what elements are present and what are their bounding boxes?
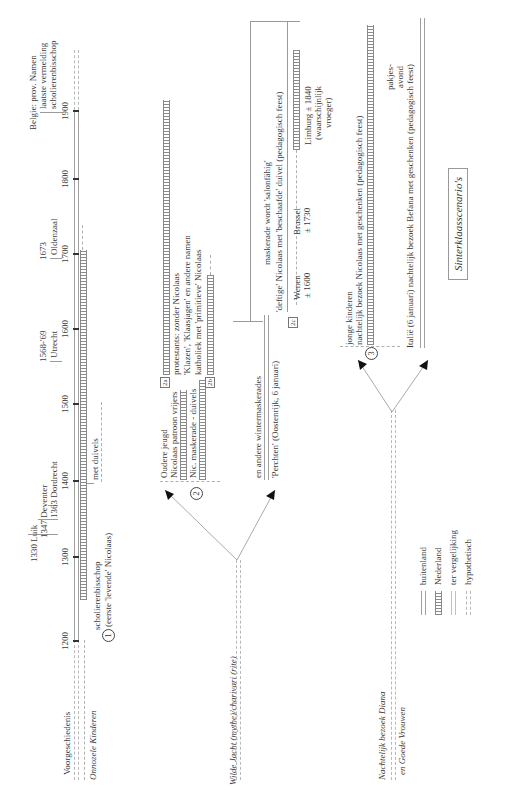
legend-label: ter vergelijking (448, 530, 458, 585)
diagram-title: Sinterklaasscenario's (448, 168, 468, 280)
s3-kinderen1: jonge kinderen (344, 291, 354, 345)
wilde-jacht-dashed (236, 560, 241, 780)
s3-pakjes2: avond (395, 66, 405, 88)
tick-1200 (73, 640, 79, 642)
s2-jeugd-band (180, 390, 187, 480)
s3-vert-dash (340, 346, 400, 347)
s1-duivels: met duivels (90, 438, 100, 480)
s2c-wenen-year: ± 1600 (302, 273, 312, 298)
s2c-bottom-line (287, 22, 288, 312)
s2-jeugd2: Nicolaas patroon vrijers (169, 392, 179, 478)
event-oldenzaal-year: 1673 (38, 242, 48, 260)
tick-label-1600: 1600 (60, 320, 70, 338)
event-utrecht-year: 1568-'69 (38, 330, 48, 362)
legend-hypothetisch: hypothetisch (463, 539, 473, 615)
s3-kinderen2: nachtelijk bezoek Nicolaas met geschenke… (354, 116, 364, 345)
event-oldenzaal: Oldenzaal (49, 219, 59, 255)
s2c-limburg: Limburg ± 1840 (303, 86, 313, 145)
s2a-protestants: protestants: zonder Nicolaas (171, 273, 181, 375)
legend-label: Nederland (433, 548, 443, 585)
s2b-dash (210, 255, 211, 275)
tick-label-1400: 1400 (60, 472, 70, 490)
event-utrecht: Utrecht (49, 331, 59, 358)
s2c-limburg-3: vroeger) (323, 98, 333, 128)
scenario-3-badge: 3 (365, 347, 378, 360)
onnozele-dash (84, 640, 85, 780)
legend-ter-vergelijking: ter vergelijking (448, 530, 458, 615)
s2c-brussel: Brussel (292, 208, 302, 235)
tick-label-1700: 1700 (60, 245, 70, 263)
oldenzaal-marker (50, 258, 62, 259)
s2-vert-dash (160, 481, 220, 482)
s1-line2: (eerste 'levende' Nicolaas) (103, 533, 113, 627)
s2a-tag: 2a (160, 377, 170, 388)
s3-pakjes1: pakjes- (385, 64, 395, 90)
legend-label: buitenland (418, 547, 428, 585)
s2c-limburg-2: (waarschijnlijk (313, 86, 323, 140)
tick-1400 (73, 480, 79, 482)
s2-maskerade-band (199, 380, 206, 480)
s2c-limburg-band (293, 50, 300, 150)
s2-jeugd1: Oudere jeugd (159, 429, 169, 478)
legend-swatch-hatched (435, 591, 442, 615)
event-namen: Belgie: prov. Namen (28, 55, 38, 130)
legend-swatch-dashed (466, 591, 471, 615)
title-text: Sinterklaasscenario's (452, 177, 464, 271)
legend-nederland: Nederland (433, 548, 443, 615)
s2-perchten: 'Perchten' (Oostenrijk, 6 januari) (270, 361, 280, 478)
axis-future-dashed (74, 50, 79, 110)
tick-1600 (73, 328, 79, 330)
label-nachtelijk-2: en Goede Vrouwen (397, 707, 407, 775)
axis-prehistory-dashed (74, 640, 79, 780)
tick-label-1200: 1200 (60, 632, 70, 650)
s2a-katholiek: katholiek met 'primitieve' Nicolaas (193, 250, 203, 375)
tick-1900 (73, 110, 79, 112)
s2-winter: en andere wintermaskerades (253, 376, 263, 478)
legend-swatch-double (421, 591, 426, 615)
duivels-marker (87, 483, 94, 484)
s1-line1: scholierenbisschop (92, 562, 102, 630)
s3-nederland-band (367, 25, 374, 345)
s3-italie: Italië (6 januari) nachtelijk bezoek Bef… (405, 64, 415, 348)
legend-buitenland: buitenland (418, 547, 428, 615)
event-namen-sub1: laatste vermelding (38, 43, 48, 109)
legend-swatch-thin (451, 591, 456, 615)
s2c-tag: 2c (288, 317, 298, 328)
tick-label-1500: 1500 (60, 395, 70, 413)
s1-connector (101, 402, 102, 482)
axis-nl-dashed-end (82, 225, 83, 250)
tick-1500 (73, 403, 79, 405)
s2b-band (207, 275, 214, 375)
s2c-salonfahig: maskerade wordt 'salonfähig' (262, 160, 272, 265)
tick-1800 (73, 178, 79, 180)
axis-nederland-band (80, 250, 87, 600)
event-dordrecht: 1363 Dordrecht (49, 461, 59, 518)
event-namen-sub2: scholierenbisschop (48, 41, 58, 109)
s2c-end-vert (250, 21, 300, 22)
sinterklaas-diagram: 1200 1300 1400 1500 1600 1700 1800 1900 … (0, 0, 505, 800)
tick-1700 (73, 253, 79, 255)
s2a-band (163, 100, 170, 375)
event-luik: 1330 Luik (29, 525, 39, 562)
s2-fork-arrows (150, 480, 290, 570)
scenario-2-badge: 2 (190, 487, 203, 500)
utrecht-marker (50, 361, 62, 362)
s2c-wenen: Wenen (292, 275, 302, 300)
s2c-brussel-year: ± 1730 (302, 208, 312, 233)
nachtelijk-dashed (391, 410, 396, 780)
event-deventer: 1347 Deventer (39, 485, 49, 538)
label-voorgeschiedenis: Voorgeschiedenis (62, 712, 72, 775)
tick-label-1900: 1900 (60, 102, 70, 120)
namen-marker (40, 112, 62, 113)
tick-1300 (73, 556, 79, 558)
s3-fork-arrows (350, 340, 440, 420)
axis-line (74, 110, 79, 640)
s2-branch-vert (233, 321, 263, 322)
s2c-top-line (250, 22, 251, 322)
tick-label-1800: 1800 (60, 170, 70, 188)
label-nachtelijk-1: Nachtelijk bezoek Diana (377, 692, 387, 780)
label-onnozele-kinderen: Onnozele Kinderen (88, 711, 98, 780)
s3-italie-line (420, 18, 425, 348)
s2b-tag: 2b (205, 377, 215, 388)
s2a-klazen: 'Klazen', 'Klaasjagen' en andere namen (182, 235, 192, 375)
